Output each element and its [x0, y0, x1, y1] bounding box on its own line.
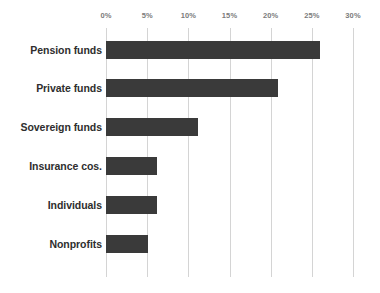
bar: [106, 118, 198, 136]
bar-chart: 0%5%10%15%20%25%30% Pension fundsPrivate…: [0, 0, 380, 293]
bar: [106, 79, 278, 97]
bar: [106, 196, 157, 214]
x-tick-label: 20%: [263, 12, 278, 20]
bar: [106, 41, 320, 59]
x-axis-tick-labels: 0%5%10%15%20%25%30%: [0, 0, 380, 28]
bar-series: [0, 28, 380, 277]
x-tick-label: 5%: [142, 12, 153, 20]
x-tick-label: 25%: [304, 12, 319, 20]
bar: [106, 157, 157, 175]
x-tick-label: 30%: [345, 12, 360, 20]
x-tick-label: 10%: [181, 12, 196, 20]
x-tick-label: 15%: [222, 12, 237, 20]
x-tick-label: 0%: [100, 12, 111, 20]
bar: [106, 235, 148, 253]
